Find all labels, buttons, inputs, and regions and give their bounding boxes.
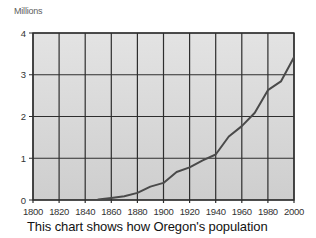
y-tick-label: 2	[21, 111, 26, 122]
chart-figure: 0123418001820184018601880190019201940196…	[0, 0, 316, 238]
x-tick-label: 1840	[75, 206, 95, 217]
x-tick-label: 1980	[258, 206, 278, 217]
y-axis-unit-label: Millions	[14, 6, 42, 16]
chart-caption: This chart shows how Oregon's population	[27, 219, 316, 234]
x-tick-label: 1880	[127, 206, 147, 217]
x-tick-label: 1920	[180, 206, 200, 217]
y-tick-label: 3	[21, 69, 26, 80]
y-tick-label: 0	[21, 195, 26, 206]
x-tick-label: 1820	[49, 206, 69, 217]
y-tick-label: 4	[21, 28, 26, 39]
line-chart-plot: 0123418001820184018601880190019201940196…	[0, 0, 316, 238]
y-tick-label: 1	[21, 153, 26, 164]
x-tick-label: 2000	[284, 206, 304, 217]
x-tick-label: 1940	[206, 206, 226, 217]
x-tick-label: 1800	[23, 206, 43, 217]
x-tick-label: 1900	[154, 206, 174, 217]
x-tick-label: 1960	[232, 206, 252, 217]
x-tick-label: 1860	[101, 206, 121, 217]
